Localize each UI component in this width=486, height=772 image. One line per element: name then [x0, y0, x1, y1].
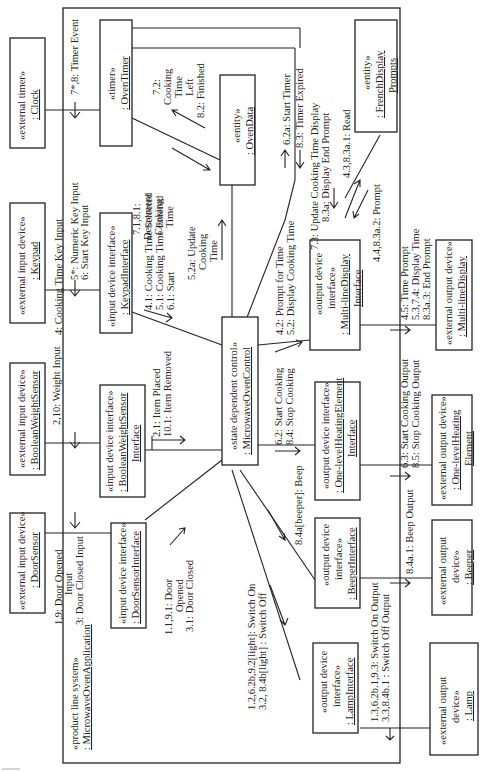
object-heating-element: «external output device» : One-levelHeat… [432, 395, 474, 505]
svg-text:6.2a: Start Timer: 6.2a: Start Timer [281, 74, 292, 145]
svg-text:: OvenTimer: : OvenTimer [119, 56, 130, 110]
svg-text:«entity»: «entity» [361, 56, 372, 90]
svg-text:: BooleanWeightSensor: : BooleanWeightSensor [117, 392, 128, 492]
svg-text:6.3: Start Cooking Output: 6.3: Start Cooking Output [399, 359, 410, 468]
svg-text:Left: Left [184, 78, 195, 96]
svg-text:: DoorSensor: : DoorSensor [29, 532, 40, 588]
svg-text:8.3a.3: End Prompt: 8.3a.3: End Prompt [421, 238, 432, 320]
svg-text:«external output: «external output [437, 676, 448, 745]
svg-text:: Keypad: : Keypad [29, 241, 40, 280]
svg-text:: MicrowaveOvenApplication: : MicrowaveOvenApplication [81, 624, 92, 750]
svg-text:3.3,8.4b.1 : Switch Off Output: 3.3,8.4b.1 : Switch Off Output [380, 594, 391, 722]
object-beeper-interface: «output device interface» : BeeperInterf… [315, 518, 360, 608]
svg-text:«external input device»: «external input device» [16, 216, 27, 315]
svg-text:1.1,9.1: Door: 1.1,9.1: Door [163, 579, 174, 636]
svg-text:7.1,8.1:: 7.1,8.1: [131, 203, 142, 235]
object-door-sensor-interface: «input device interface» : DoorSensorInt… [111, 523, 146, 628]
svg-text:4.5: Time Prompt: 4.5: Time Prompt [399, 246, 410, 320]
svg-text:3: Door Closed Input: 3: Door Closed Input [74, 536, 85, 625]
svg-text:Time: Time [173, 76, 184, 98]
svg-text:: BooleanWeightSensor: : BooleanWeightSensor [29, 370, 40, 470]
svg-text:2.1: Item Placed: 2.1: Item Placed [151, 368, 162, 437]
object-beeper: «external output device» : Beeper [432, 520, 474, 615]
svg-text:«product line system»: «product line system» [69, 657, 80, 750]
svg-text:Element: Element [463, 431, 474, 466]
object-keypad-interface: «input device interface» : KeypadInterfa… [100, 213, 132, 333]
svg-text:device»: device» [450, 690, 461, 723]
svg-text:6: Start Key Input: 6: Start Key Input [79, 204, 90, 280]
svg-text:: Clock: : Clock [29, 89, 40, 120]
svg-text:«timer»: «timer» [106, 67, 117, 100]
object-weight-sensor-interface: «input device interface» : BooleanWeight… [100, 385, 145, 497]
svg-text:«output device: «output device [320, 524, 331, 586]
svg-text:Interface: Interface [352, 269, 363, 307]
svg-text:5.1: Cooking Time Entered: 5.1: Cooking Time Entered [154, 195, 165, 310]
svg-text:8.4: Stop Cooking: 8.4: Stop Cooking [284, 368, 295, 445]
svg-text:6.2: Start Cooking: 6.2: Start Cooking [273, 367, 284, 445]
svg-text:: Multi-lineDisplay: : Multi-lineDisplay [339, 253, 350, 335]
svg-text:8.3: Timer Expired: 8.3: Timer Expired [294, 68, 305, 148]
svg-text:: OvenData: : OvenData [244, 107, 255, 155]
svg-text:Interface: Interface [346, 419, 357, 457]
svg-text:interface»: interface» [331, 665, 342, 707]
object-oven-data: «entity» : OvenData [220, 75, 255, 185]
svg-text:Prompts: Prompts [387, 58, 398, 93]
svg-text:interface»: interface» [333, 538, 344, 580]
svg-text:8.4a[beeper]: Beep: 8.4a[beeper]: Beep [293, 465, 304, 545]
svg-text:4.3,8.3a.1: Read: 4.3,8.3a.1: Read [341, 109, 352, 178]
svg-text:«external timer»: «external timer» [16, 71, 27, 140]
svg-text:: DoorSensorInterface: : DoorSensorInterface [130, 531, 141, 624]
svg-text:«external output device»: «external output device» [437, 396, 448, 500]
object-clock: «external timer» : Clock [10, 38, 45, 148]
communication-diagram: «product line system» : MicrowaveOvenApp… [0, 0, 486, 772]
svg-text:3.1: Door Closed: 3.1: Door Closed [184, 559, 195, 632]
svg-text:1.2,6.2b,9.2[light]: Switch On: 1.2,6.2b,9.2[light]: Switch On [246, 583, 257, 710]
svg-text:5.3,7.4: Display Time: 5.3,7.4: Display Time [410, 228, 421, 320]
svg-text:8.2: Finished: 8.2: Finished [195, 62, 206, 118]
svg-text:«output device: «output device [313, 253, 324, 315]
object-weight-sensor: «external input device» : BooleanWeightS… [10, 363, 45, 475]
svg-text:8.4a.1: Beep Output: 8.4a.1: Beep Output [404, 489, 415, 574]
system-label: «product line system» : MicrowaveOvenApp… [69, 624, 92, 750]
svg-text:«output device: «output device [318, 651, 329, 713]
object-french-display-prompts: «entity» : FrenchDisplay Prompts [355, 20, 398, 132]
svg-text:interface»: interface» [326, 267, 337, 309]
svg-text:Input: Input [63, 573, 74, 595]
svg-text:Cooking: Cooking [197, 233, 208, 270]
svg-text:1.3,6.2b.1,9.3: Switch On Outp: 1.3,6.2b.1,9.3: Switch On Output [369, 582, 380, 722]
svg-text:10.1: Item Removed: 10.1: Item Removed [162, 350, 173, 437]
svg-text:: BeeperInterface: : BeeperInterface [346, 527, 357, 600]
object-microwave-oven-control: «state dependent control» : MicrowaveOve… [222, 317, 258, 465]
svg-text:7.2:: 7.2: [151, 79, 162, 95]
svg-text:Time: Time [208, 240, 219, 262]
svg-text:: One-levelHeating: : One-levelHeating [450, 409, 461, 490]
svg-text:: Lamp: : Lamp [463, 691, 474, 721]
svg-text:device»: device» [450, 550, 461, 583]
svg-text:8.3a: Display End Prompt: 8.3a: Display End Prompt [320, 113, 331, 222]
svg-text:: KeypadInterface: : KeypadInterface [119, 239, 130, 315]
svg-text:«external input device»: «external input device» [16, 511, 27, 610]
object-heating-element-interface: «output device interface» : One-levelHea… [315, 378, 360, 500]
svg-text:«input device interface»: «input device interface» [104, 391, 115, 492]
svg-text:: FrenchDisplay: : FrenchDisplay [374, 50, 385, 118]
svg-text:7.3: Update Cooking Time Displ: 7.3: Update Cooking Time Display [309, 102, 320, 250]
object-lamp-interface: «output device interface» : LampInterfac… [313, 643, 358, 733]
svg-text:: Multi-lineDisplay: : Multi-lineDisplay [456, 255, 467, 337]
svg-text:3.2, 8.4b[light] : Switch Off: 3.2, 8.4b[light] : Switch Off [257, 592, 268, 710]
svg-text:8.5: Stop Cooking Output: 8.5: Stop Cooking Output [410, 359, 421, 468]
object-door-sensor: «external input device» : DoorSensor [10, 511, 45, 613]
svg-text:4.4,8.3a.2: Prompt: 4.4,8.3a.2: Prompt [371, 184, 382, 262]
svg-text:4.2: Prompt for Time: 4.2: Prompt for Time [274, 246, 285, 335]
svg-text:7*,8: Timer Event: 7*,8: Timer Event [69, 19, 80, 95]
svg-text:5.2: Display Cooking Time: 5.2: Display Cooking Time [285, 220, 296, 335]
svg-text:«output device interface»: «output device interface» [320, 382, 331, 489]
svg-text:«input device interface»: «input device interface» [106, 226, 117, 327]
svg-text:Time: Time [164, 206, 175, 228]
object-display-interface: «output device interface» : Multi-lineDi… [310, 240, 363, 350]
svg-text:«external output: «external output [437, 536, 448, 605]
svg-text:: LampInterface: : LampInterface [344, 657, 355, 725]
object-oven-timer: «timer» : OvenTimer [100, 20, 132, 146]
svg-text:6.1: Start: 6.1: Start [165, 271, 176, 310]
svg-text:Cooking: Cooking [162, 68, 173, 105]
svg-text:«external output device»: «external output device» [443, 241, 454, 345]
